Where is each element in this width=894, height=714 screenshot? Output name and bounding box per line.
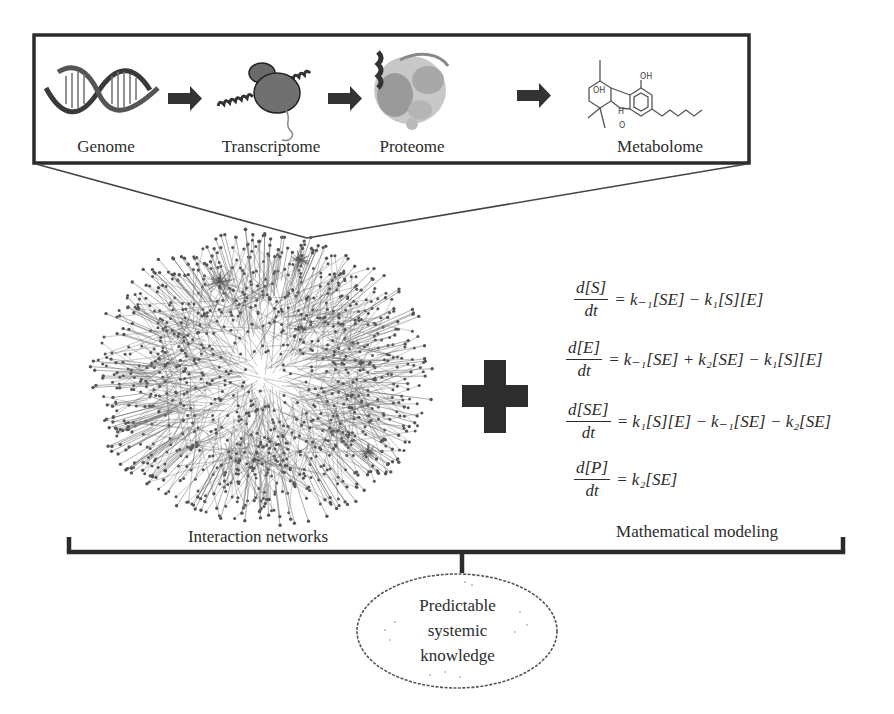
equation-3: d[SE]dt = k₁[S][E] − k₋₁[SE] − k₂[SE] (566, 400, 831, 443)
atom-oh-1: OH (593, 86, 605, 95)
modeling-label: Mathematical modeling (616, 522, 778, 542)
equation-4: d[P]dt = k₂[SE] (574, 458, 677, 501)
funnel-line-left (36, 164, 307, 238)
eq3-rhs: = k₁[S][E] − k₋₁[SE] − k₂[SE] (617, 411, 832, 432)
stage-label-transcriptome: Transcriptome (222, 137, 321, 157)
outcome-line-2: systemic (357, 618, 558, 643)
plus-icon (462, 360, 528, 433)
ribosome-mrna-icon (217, 63, 310, 140)
stage-label-genome: Genome (77, 137, 135, 157)
equation-2: d[E]dt = k₋₁[SE] + k₂[SE] − k₁[S][E] (566, 338, 823, 381)
eq3-denominator: dt (582, 422, 595, 443)
atom-oh-2: OH (640, 72, 652, 81)
eq2-denominator: dt (577, 360, 590, 381)
right-arrow-icon (517, 83, 551, 108)
outcome-text: Predictable systemic knowledge (357, 593, 558, 668)
stage-label-proteome: Proteome (379, 137, 444, 157)
eq1-numerator: d[S] (574, 278, 608, 300)
eq4-denominator: dt (585, 480, 598, 501)
atom-h: H (618, 107, 624, 116)
funnel-line-right (307, 164, 747, 238)
protein-structure-icon (374, 52, 448, 130)
outcome-line-3: knowledge (357, 643, 558, 668)
atom-o: O (619, 121, 625, 130)
eq1-denominator: dt (585, 300, 598, 321)
network-label: Interaction networks (188, 527, 328, 547)
eq4-numerator: d[P] (574, 458, 610, 480)
eq4-rhs: = k₂[SE] (616, 470, 677, 490)
eq3-numerator: d[SE] (566, 400, 611, 422)
stage-label-metabolome: Metabolome (617, 137, 703, 157)
outcome-line-1: Predictable (357, 593, 558, 618)
right-arrow-icon (328, 86, 362, 111)
eq2-rhs: = k₋₁[SE] + k₂[SE] − k₁[S][E] (608, 349, 823, 370)
equation-1: d[S]dt = k₋₁[SE] − k₁[S][E] (574, 278, 763, 321)
dna-helix-icon (46, 68, 158, 112)
eq2-numerator: d[E] (566, 338, 602, 360)
right-arrow-icon (168, 86, 202, 111)
interaction-network-graph (89, 228, 434, 527)
eq1-rhs: = k₋₁[SE] − k₁[S][E] (614, 289, 763, 310)
